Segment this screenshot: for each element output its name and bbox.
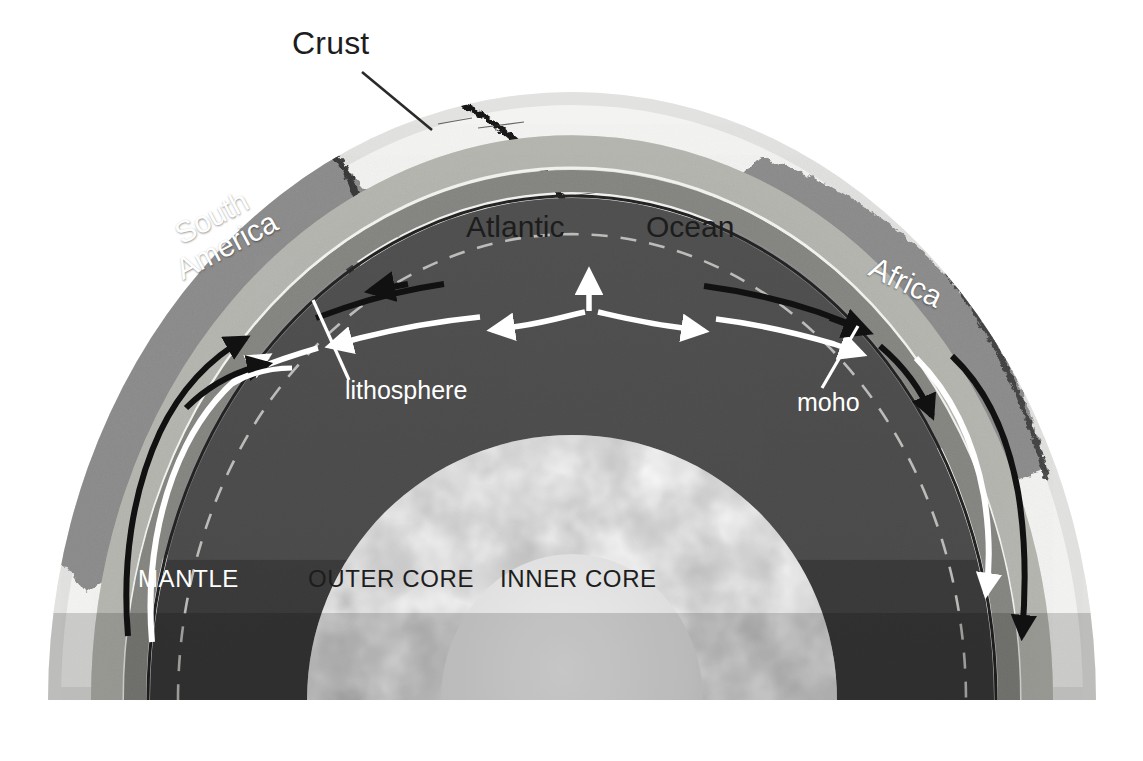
- earth-diagram-svg: [0, 0, 1143, 761]
- ocean-label: Ocean: [646, 212, 734, 242]
- inner-core-label: INNER CORE: [500, 567, 657, 591]
- atlantic-label: Atlantic: [466, 212, 564, 242]
- mantle-label: MANTLE: [138, 567, 239, 591]
- earth-cross-section-figure: Crust Atlantic Ocean South America Afric…: [0, 0, 1143, 761]
- outer-core-label: OUTER CORE: [308, 567, 474, 591]
- moho-label: moho: [797, 390, 860, 415]
- lithosphere-label: lithosphere: [345, 378, 467, 403]
- crust-label: Crust: [292, 27, 369, 59]
